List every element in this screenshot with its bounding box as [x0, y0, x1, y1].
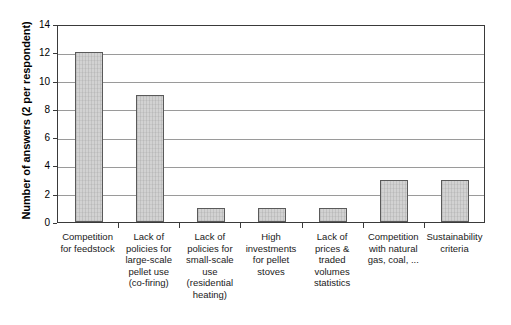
plot-area	[57, 25, 485, 223]
bar	[75, 52, 103, 222]
bar	[197, 208, 225, 222]
x-axis-category-labels: Competitionfor feedstockLack ofpolicies …	[57, 231, 485, 323]
bar-chart: Number of answers (2 per respondent) 141…	[0, 0, 511, 325]
x-tick-mark-5	[363, 223, 364, 228]
x-tick-mark-1	[118, 223, 119, 228]
x-axis-label: Competitionfor feedstock	[57, 231, 118, 254]
y-tick-label-14: 14	[28, 20, 50, 30]
x-axis-label: Competitionwith naturalgas, coal, ...	[363, 231, 424, 266]
gridline-10	[58, 82, 484, 83]
bar	[380, 180, 408, 222]
y-tick-label-10: 10	[28, 77, 50, 87]
x-axis-label: Highinvestmentsfor pelletstoves	[240, 231, 301, 277]
x-axis-label: Lack ofprices &tradedvolumesstatistics	[302, 231, 363, 289]
bar	[136, 95, 164, 222]
x-axis-label: Lack ofpolicies forsmall-scaleuse(reside…	[179, 231, 240, 300]
bar	[319, 208, 347, 222]
x-tick-mark-3	[240, 223, 241, 228]
y-tick-label-0: 0	[28, 218, 50, 228]
bar	[258, 208, 286, 222]
gridline-4	[58, 167, 484, 168]
y-tick-label-2: 2	[28, 190, 50, 200]
x-axis-label: Lack ofpolicies forlarge-scalepellet use…	[118, 231, 179, 289]
x-tick-mark-6	[424, 223, 425, 228]
y-tick-label-8: 8	[28, 105, 50, 115]
x-tick-mark-4	[302, 223, 303, 228]
bar	[441, 180, 469, 222]
y-tick-label-12: 12	[28, 48, 50, 58]
x-axis-label: Sustainabilitycriteria	[424, 231, 485, 254]
y-tick-label-4: 4	[28, 161, 50, 171]
gridline-12	[58, 54, 484, 55]
gridline-8	[58, 110, 484, 111]
y-tick-label-6: 6	[28, 133, 50, 143]
x-tick-mark-2	[179, 223, 180, 228]
y-tick-mark-0	[53, 223, 57, 224]
gridline-2	[58, 195, 484, 196]
gridline-6	[58, 139, 484, 140]
